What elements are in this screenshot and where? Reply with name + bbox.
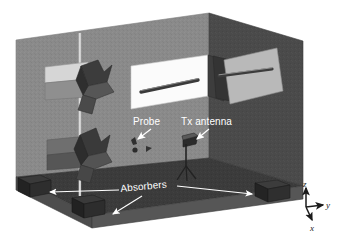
- axis-x-arrow: [306, 207, 312, 220]
- absorber-box-right: [255, 180, 290, 202]
- label-probe: Probe: [133, 117, 160, 127]
- figure-anechoic-chamber: Probe Tx antenna Absorbers z y x: [0, 0, 337, 244]
- axis-label-y: y: [326, 201, 330, 210]
- absorber-box-left-back: [18, 175, 51, 197]
- axis-triad: [306, 188, 323, 220]
- label-tx-antenna: Tx antenna: [181, 117, 232, 127]
- chamber-illustration: [0, 0, 337, 244]
- absorber-box-left-front: [72, 195, 105, 218]
- axis-label-x: x: [310, 224, 314, 233]
- axis-y-arrow: [306, 205, 323, 207]
- probe-base: [132, 147, 137, 152]
- axis-label-z: z: [303, 180, 307, 189]
